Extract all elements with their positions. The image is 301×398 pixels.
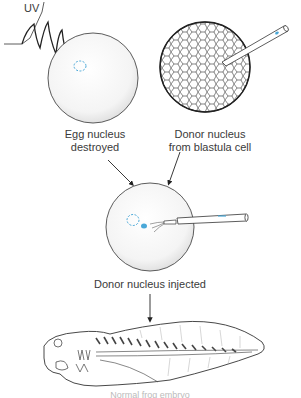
egg-caption: Egg nucleus destroyed — [40, 128, 150, 154]
uv-label: UV — [24, 2, 39, 15]
egg-caption-line2: destroyed — [40, 141, 150, 154]
donor-caption: Donor nucleus from blastula cell — [150, 128, 270, 154]
tadpole-embryo — [44, 321, 264, 386]
donor-nucleus-icon — [141, 224, 147, 229]
egg-injected — [106, 183, 194, 271]
blastula — [160, 22, 250, 112]
donor-caption-line1: Donor nucleus — [150, 128, 270, 141]
egg-caption-line1: Egg nucleus — [40, 128, 150, 141]
arrow-right — [169, 152, 180, 183]
bottom-caption: Normal frog embryo — [90, 391, 210, 398]
diagram-canvas — [0, 0, 301, 398]
donor-caption-line2: from blastula cell — [150, 141, 270, 154]
injected-caption: Donor nucleus injected — [60, 278, 240, 291]
egg-uv-treated — [48, 33, 138, 123]
arrow-left — [108, 160, 132, 184]
